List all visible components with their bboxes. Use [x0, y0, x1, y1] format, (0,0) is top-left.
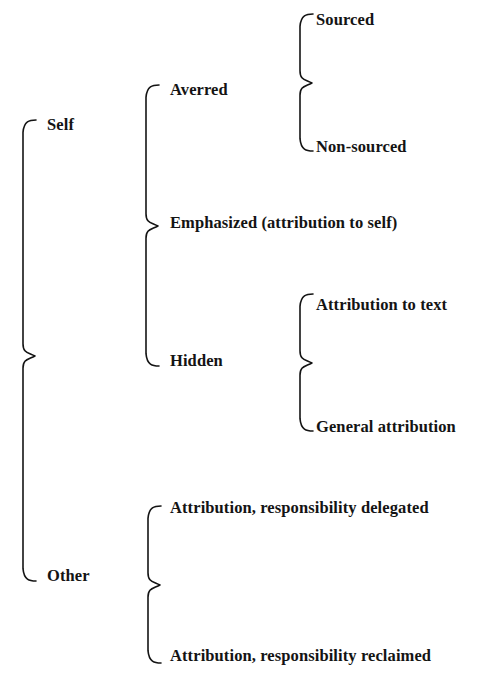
node-label-resp-delegated: Attribution, responsibility delegated	[170, 500, 429, 517]
node-label-attribution-to-text: Attribution to text	[316, 297, 447, 314]
brace-self	[146, 85, 159, 366]
tree-diagram: SelfAverredSourcedNon-sourcedEmphasized …	[0, 0, 493, 685]
node-label-resp-reclaimed: Attribution, responsibility reclaimed	[170, 648, 431, 665]
brace-other	[148, 506, 161, 663]
node-label-emphasized: Emphasized (attribution to self)	[170, 215, 397, 232]
node-label-general-attribution: General attribution	[316, 419, 456, 436]
node-label-sourced: Sourced	[316, 12, 374, 29]
node-label-other: Other	[47, 568, 90, 585]
brace-averred	[300, 14, 313, 151]
node-label-hidden: Hidden	[170, 353, 223, 370]
brace-hidden	[300, 294, 313, 431]
node-label-self: Self	[47, 117, 74, 134]
node-label-non-sourced: Non-sourced	[316, 139, 407, 156]
brace-root	[23, 120, 36, 581]
node-label-averred: Averred	[170, 82, 228, 99]
